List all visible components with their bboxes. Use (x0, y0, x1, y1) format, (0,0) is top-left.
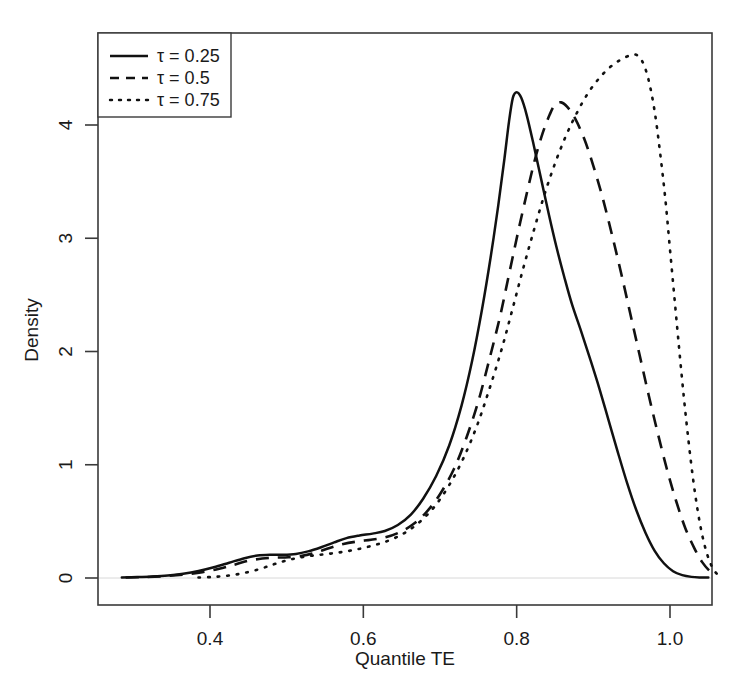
x-axis-tick-label: 0.4 (197, 628, 224, 649)
y-axis-tick-label: 0 (55, 573, 76, 584)
data-curves (122, 54, 721, 577)
legend-label-solid: τ = 0.25 (157, 46, 220, 66)
y-axis-title: Density (21, 298, 42, 362)
legend-label-dotted: τ = 0.75 (157, 90, 220, 110)
curve-solid (122, 92, 709, 577)
x-axis-tick-label: 0.8 (503, 628, 529, 649)
legend-label-dashed: τ = 0.5 (157, 68, 210, 88)
y-axis-tick-label: 3 (55, 233, 76, 244)
y-axis-tick-label: 1 (55, 459, 76, 470)
curve-dashed (126, 102, 716, 577)
x-axis-tick-label: 1.0 (657, 628, 683, 649)
x-axis-title: Quantile TE (355, 648, 455, 669)
density-plot-figure: 0.40.60.81.0 01234 Quantile TE Density τ… (0, 0, 747, 698)
plot-canvas: 0.40.60.81.0 01234 Quantile TE Density τ… (0, 0, 747, 698)
y-axis-tick-label: 2 (55, 346, 76, 357)
y-axis-tick-label: 4 (55, 119, 76, 130)
curve-dotted (199, 54, 721, 577)
x-axis: 0.40.60.81.0 (197, 605, 683, 649)
legend: τ = 0.25 τ = 0.5 τ = 0.75 (98, 33, 231, 117)
y-axis: 01234 (55, 119, 98, 583)
x-axis-tick-label: 0.6 (350, 628, 376, 649)
